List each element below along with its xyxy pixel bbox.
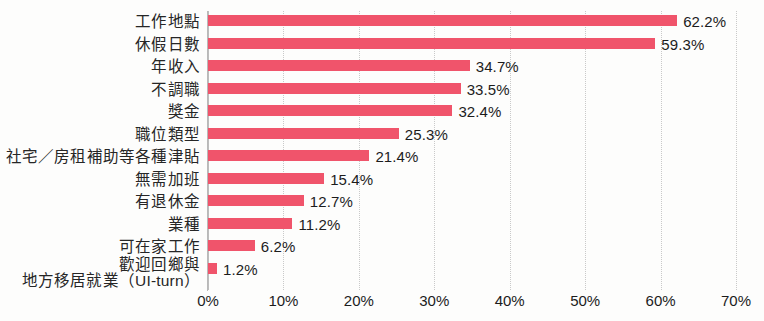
- bar-value-label: 15.4%: [330, 171, 373, 188]
- category-label-line: 年收入: [0, 58, 200, 75]
- x-tick-label: 30%: [419, 292, 449, 309]
- bar-row: 歡迎回鄉與地方移居就業（UI-turn）1.2%: [0, 259, 764, 282]
- category-label: 歡迎回鄉與地方移居就業（UI-turn）: [0, 257, 200, 289]
- bar-row: 年收入34.7%: [0, 56, 764, 79]
- bar[interactable]: [208, 38, 655, 49]
- category-label: 不調職: [0, 81, 200, 98]
- bar-row: 休假日數59.3%: [0, 34, 764, 57]
- category-label-line: 獎金: [0, 103, 200, 120]
- category-label: 社宅／房租補助等各種津貼: [0, 148, 200, 165]
- category-label: 職位類型: [0, 126, 200, 143]
- category-label: 工作地點: [0, 13, 200, 30]
- bar[interactable]: [208, 195, 304, 206]
- bar-chart: 工作地點62.2%休假日數59.3%年收入34.7%不調職33.5%獎金32.4…: [0, 0, 764, 321]
- category-label-line: 社宅／房租補助等各種津貼: [0, 148, 200, 165]
- bar[interactable]: [208, 83, 461, 94]
- bar-value-label: 34.7%: [476, 58, 519, 75]
- bar-row: 不調職33.5%: [0, 79, 764, 102]
- category-label: 無需加班: [0, 171, 200, 188]
- bar-row: 獎金32.4%: [0, 101, 764, 124]
- bar-value-label: 6.2%: [261, 238, 296, 255]
- x-tick-label: 0%: [197, 292, 219, 309]
- bar-value-label: 62.2%: [683, 13, 726, 30]
- category-label: 業種: [0, 216, 200, 233]
- category-label-line: 不調職: [0, 81, 200, 98]
- category-label-line: 職位類型: [0, 126, 200, 143]
- x-tick-label: 70%: [721, 292, 751, 309]
- category-label-line: 休假日數: [0, 36, 200, 53]
- bar-value-label: 21.4%: [375, 148, 418, 165]
- bar[interactable]: [208, 60, 470, 71]
- category-label: 休假日數: [0, 36, 200, 53]
- bar-value-label: 59.3%: [661, 36, 704, 53]
- bar[interactable]: [208, 173, 324, 184]
- bar[interactable]: [208, 263, 217, 274]
- bar-value-label: 1.2%: [223, 261, 258, 278]
- bar-value-label: 32.4%: [458, 103, 501, 120]
- bar[interactable]: [208, 15, 677, 26]
- category-label-line: 地方移居就業（UI-turn）: [0, 273, 200, 289]
- bar[interactable]: [208, 128, 399, 139]
- bar-row: 工作地點62.2%: [0, 11, 764, 34]
- bar[interactable]: [208, 218, 292, 229]
- category-label-line: 無需加班: [0, 171, 200, 188]
- category-label: 有退休金: [0, 193, 200, 210]
- bar-row: 社宅／房租補助等各種津貼21.4%: [0, 146, 764, 169]
- bar-value-label: 33.5%: [467, 81, 510, 98]
- bar-value-label: 12.7%: [310, 193, 353, 210]
- category-label-line: 業種: [0, 216, 200, 233]
- bar-row: 有退休金12.7%: [0, 191, 764, 214]
- x-tick-label: 10%: [268, 292, 298, 309]
- x-tick-label: 40%: [495, 292, 525, 309]
- category-label-line: 可在家工作: [0, 238, 200, 255]
- x-tick-label: 20%: [344, 292, 374, 309]
- bar-value-label: 11.2%: [298, 216, 340, 233]
- category-label-line: 歡迎回鄉與: [0, 257, 200, 273]
- x-tick-label: 50%: [570, 292, 600, 309]
- bar[interactable]: [208, 105, 452, 116]
- bar-value-label: 25.3%: [405, 126, 448, 143]
- category-label: 獎金: [0, 103, 200, 120]
- bar-row: 業種11.2%: [0, 214, 764, 237]
- x-tick-label: 60%: [646, 292, 676, 309]
- bar-row-group: 工作地點62.2%休假日數59.3%年收入34.7%不調職33.5%獎金32.4…: [0, 0, 764, 290]
- bar[interactable]: [208, 150, 369, 161]
- x-axis: 0%10%20%30%40%50%60%70%: [0, 292, 764, 321]
- bar[interactable]: [208, 240, 255, 251]
- category-label: 可在家工作: [0, 238, 200, 255]
- category-label: 年收入: [0, 58, 200, 75]
- category-label-line: 有退休金: [0, 193, 200, 210]
- bar-row: 可在家工作6.2%: [0, 236, 764, 259]
- category-label-line: 工作地點: [0, 13, 200, 30]
- bar-row: 職位類型25.3%: [0, 124, 764, 147]
- bar-row: 無需加班15.4%: [0, 169, 764, 192]
